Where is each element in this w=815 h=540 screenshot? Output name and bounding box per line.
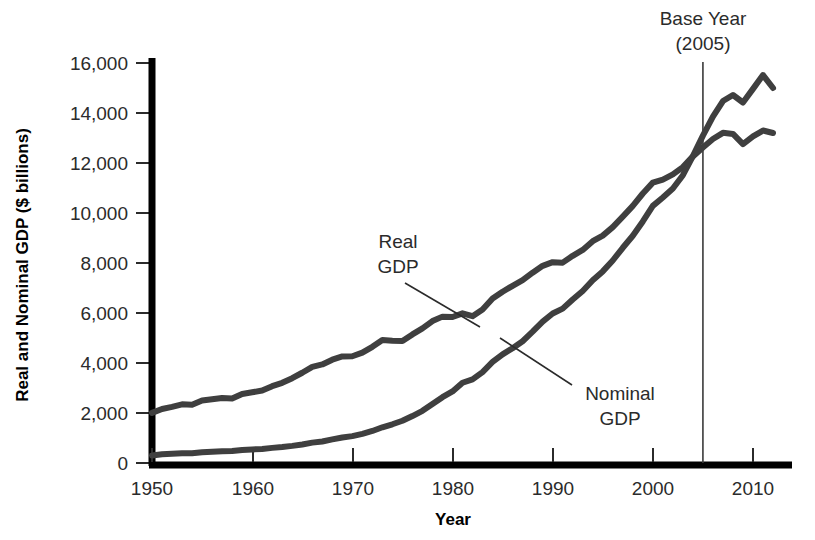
y-tick-label: 8,000 xyxy=(80,253,128,274)
real-gdp-label-line2: GDP xyxy=(377,256,418,277)
y-tick-label: 6,000 xyxy=(80,303,128,324)
y-tick-marks xyxy=(136,63,150,463)
y-tick-label: 0 xyxy=(117,453,128,474)
y-tick-label: 16,000 xyxy=(70,53,128,74)
y-axis-title: Real and Nominal GDP ($ billions) xyxy=(13,128,32,402)
x-tick-label: 2000 xyxy=(632,478,674,499)
real-gdp-leader-line xyxy=(405,283,480,327)
series-line-nominal-gdp xyxy=(152,75,773,455)
x-tick-label: 1970 xyxy=(332,478,374,499)
y-tick-label: 14,000 xyxy=(70,103,128,124)
y-tick-label: 10,000 xyxy=(70,203,128,224)
y-tick-label: 4,000 xyxy=(80,353,128,374)
x-tick-label: 1990 xyxy=(532,478,574,499)
base-year-label-line2: (2005) xyxy=(676,33,731,54)
nominal-gdp-leader-line xyxy=(500,338,572,385)
x-tick-label: 2010 xyxy=(732,478,774,499)
x-tick-label: 1950 xyxy=(131,478,173,499)
nominal-gdp-label-line1: Nominal xyxy=(585,383,655,404)
x-tick-label: 1960 xyxy=(232,478,274,499)
base-year-label-line1: Base Year xyxy=(660,8,747,29)
y-tick-label: 12,000 xyxy=(70,153,128,174)
gdp-line-chart: Real and Nominal GDP ($ billions) 16,000… xyxy=(0,0,815,540)
x-axis-title: Year xyxy=(435,510,471,529)
x-tick-label: 1980 xyxy=(432,478,474,499)
x-tick-labels: 1950 1960 1970 1980 1990 2000 2010 xyxy=(131,478,774,499)
y-tick-labels: 16,000 14,000 12,000 10,000 8,000 6,000 … xyxy=(70,53,128,474)
chart-page: Real and Nominal GDP ($ billions) 16,000… xyxy=(0,0,815,540)
real-gdp-label-line1: Real xyxy=(378,231,417,252)
series-line-real-gdp xyxy=(152,131,773,413)
y-tick-label: 2,000 xyxy=(80,403,128,424)
nominal-gdp-label-line2: GDP xyxy=(599,408,640,429)
